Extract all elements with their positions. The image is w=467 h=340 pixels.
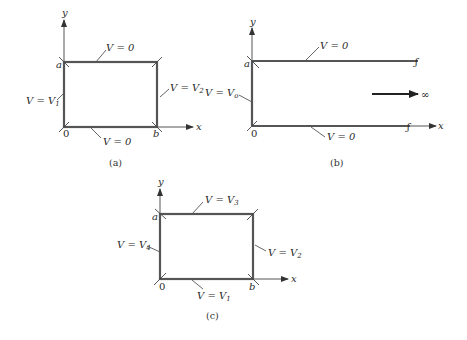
left-boundary-label: V = V1 bbox=[26, 95, 60, 108]
leader-line bbox=[96, 50, 106, 62]
origin-label: 0 bbox=[159, 281, 165, 292]
boundary-rectangle bbox=[64, 62, 157, 127]
right-boundary-label: V = V2 bbox=[170, 82, 204, 95]
x-axis-label: x bbox=[438, 120, 444, 131]
figure-canvas: y x a 0 b V = 0 V = 0 V = V1 V = V2 (a) … bbox=[0, 0, 467, 340]
y-axis-label: y bbox=[249, 16, 256, 27]
leader-line bbox=[192, 280, 203, 289]
caption-a: (a) bbox=[109, 157, 122, 168]
bottom-boundary-label: V = V1 bbox=[197, 290, 231, 303]
bottom-boundary-label: V = 0 bbox=[103, 136, 132, 147]
leader-line bbox=[255, 245, 266, 251]
top-boundary-label: V = 0 bbox=[106, 42, 135, 53]
left-boundary-label: V = Vo bbox=[205, 87, 238, 100]
panel-b: y ʃ ʃ x ∞ a 0 V = 0 V = 0 V = Vo (b) bbox=[205, 16, 444, 168]
panel-c: y x a 0 b V = V3 V = V1 V = V4 V = V2 (c… bbox=[117, 176, 302, 321]
corner-a-label: a bbox=[56, 59, 62, 70]
x-axis-label: x bbox=[291, 273, 297, 284]
left-boundary-label: V = V4 bbox=[117, 239, 151, 252]
leader-line bbox=[160, 89, 169, 97]
leader-line bbox=[239, 95, 252, 102]
top-boundary-label: V = 0 bbox=[320, 40, 349, 51]
leader-line bbox=[192, 202, 203, 214]
panel-a: y x a 0 b V = 0 V = 0 V = V1 V = V2 (a) bbox=[26, 7, 204, 168]
leader-line bbox=[91, 128, 101, 138]
x-axis-label: x bbox=[196, 121, 202, 132]
caption-b: (b) bbox=[330, 157, 344, 168]
leader-line bbox=[311, 127, 325, 137]
origin-label: 0 bbox=[251, 128, 257, 139]
corner-a-label: a bbox=[244, 58, 250, 69]
caption-c: (c) bbox=[206, 310, 219, 321]
infinity-symbol: ∞ bbox=[421, 89, 429, 100]
corner-a-label: a bbox=[152, 211, 158, 222]
y-axis-label: y bbox=[61, 7, 68, 18]
corner-b-label: b bbox=[249, 281, 255, 292]
bottom-boundary-label: V = 0 bbox=[327, 131, 356, 142]
top-boundary-label: V = V3 bbox=[205, 194, 239, 207]
boundary-rectangle bbox=[160, 214, 253, 279]
origin-label: 0 bbox=[63, 128, 69, 139]
corner-b-label: b bbox=[153, 128, 159, 139]
break-mark: ʃ bbox=[413, 56, 420, 67]
leader-line bbox=[306, 47, 319, 60]
y-axis-label: y bbox=[157, 176, 164, 187]
right-boundary-label: V = V2 bbox=[268, 247, 302, 260]
